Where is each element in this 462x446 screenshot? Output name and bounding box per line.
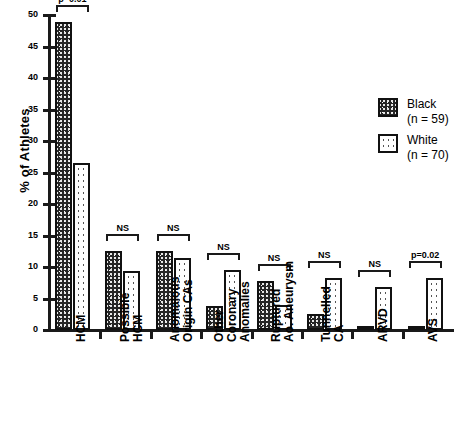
bar-group bbox=[357, 15, 392, 330]
significance-annotation: NS bbox=[201, 242, 246, 260]
y-tick-label-0: 0 bbox=[12, 324, 38, 334]
bar-group bbox=[307, 15, 342, 330]
bar-group bbox=[105, 15, 140, 330]
y-tick-label-50: 50 bbox=[12, 9, 38, 19]
y-tick-label-30: 30 bbox=[12, 135, 38, 145]
significance-label: NS bbox=[352, 259, 397, 269]
significance-annotation: NS bbox=[352, 259, 397, 277]
bar-black bbox=[408, 326, 425, 330]
significance-label: p=0.02 bbox=[403, 250, 448, 260]
bar-black bbox=[55, 22, 72, 330]
x-tick-label: Tunnelled CA bbox=[320, 286, 346, 342]
y-tick-label-15: 15 bbox=[12, 230, 38, 240]
significance-bracket bbox=[207, 253, 240, 260]
y-tick-label-45: 45 bbox=[12, 41, 38, 51]
bar-black bbox=[357, 326, 374, 330]
significance-annotation: NS bbox=[302, 250, 347, 268]
y-tick-label-5: 5 bbox=[12, 293, 38, 303]
legend-item: White (n = 70) bbox=[378, 134, 460, 170]
x-tick-label: Possible HCM bbox=[119, 293, 145, 342]
legend: Black (n = 59)White (n = 70) bbox=[378, 98, 460, 170]
y-tick-label-35: 35 bbox=[12, 104, 38, 114]
significance-annotation: NS bbox=[100, 223, 145, 241]
y-tick-label-20: 20 bbox=[12, 198, 38, 208]
y-tick-label-25: 25 bbox=[12, 167, 38, 177]
legend-swatch-white bbox=[378, 134, 398, 153]
significance-bracket bbox=[409, 261, 442, 268]
x-tick-label: Anomalous Origin CAs bbox=[169, 277, 195, 342]
x-tick bbox=[351, 332, 354, 339]
x-tick-label: Ruptured Ao. Aneurysm bbox=[270, 261, 296, 342]
x-tick bbox=[99, 332, 102, 339]
significance-label: NS bbox=[100, 223, 145, 233]
significance-bracket bbox=[157, 234, 190, 241]
bar-group bbox=[55, 15, 90, 330]
x-tick bbox=[402, 332, 405, 339]
x-tick bbox=[150, 332, 153, 339]
significance-label: NS bbox=[151, 223, 196, 233]
legend-item: Black (n = 59) bbox=[378, 98, 460, 134]
x-tick-label: Other Coronary Anomalies bbox=[213, 281, 252, 342]
x-tick bbox=[200, 332, 203, 339]
significance-bracket bbox=[308, 261, 341, 268]
plot-area bbox=[51, 15, 454, 330]
y-tick-label-10: 10 bbox=[12, 261, 38, 271]
bar-group bbox=[408, 15, 443, 330]
x-tick-label: AVS bbox=[427, 318, 440, 342]
significance-bracket bbox=[56, 5, 89, 12]
significance-annotation: NS bbox=[151, 223, 196, 241]
bar-white bbox=[73, 163, 90, 330]
bar-chart: % of Athletes 05101520253035404550 p=0.0… bbox=[0, 0, 462, 446]
y-tick-label-40: 40 bbox=[12, 72, 38, 82]
x-tick-label: HCM bbox=[75, 315, 88, 342]
significance-bracket bbox=[358, 270, 391, 277]
significance-annotation: p=0.01 bbox=[50, 0, 95, 12]
x-tick bbox=[301, 332, 304, 339]
legend-label-black: Black (n = 59) bbox=[407, 97, 449, 127]
x-tick-label: ARVD bbox=[377, 308, 390, 342]
significance-bracket bbox=[106, 234, 139, 241]
significance-label: NS bbox=[201, 242, 246, 252]
significance-label: p=0.01 bbox=[50, 0, 95, 4]
significance-annotation: p=0.02 bbox=[403, 250, 448, 268]
legend-swatch-black bbox=[378, 98, 398, 117]
significance-label: NS bbox=[302, 250, 347, 260]
legend-label-white: White (n = 70) bbox=[407, 133, 449, 163]
